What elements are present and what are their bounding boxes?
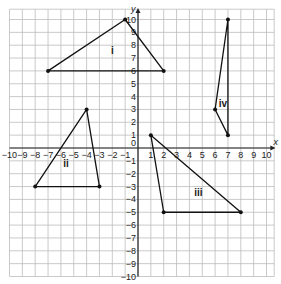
vertex-point [213,107,217,111]
origin-label: 0 [131,138,136,148]
y-tick-label: −7 [126,233,136,243]
y-tick-label: −3 [126,182,136,192]
vertex-point [162,69,166,73]
x-tick-label: 9 [251,150,256,160]
x-axis-label: x [273,137,279,147]
y-tick-label: 7 [131,53,136,63]
triangle-label: i [111,45,114,56]
triangle-label: iv [219,98,228,109]
y-tick-label: −6 [126,220,136,230]
y-tick-label: 8 [131,40,136,50]
x-tick-label: 8 [238,150,243,160]
x-tick-label: 1 [148,150,153,160]
triangle-label: iii [194,187,203,198]
x-tick-label: 4 [187,150,192,160]
y-tick-label: 2 [131,117,136,127]
triangle-outline [215,20,228,136]
vertex-point [123,18,127,22]
y-tick-label: −9 [126,259,136,269]
vertex-point [85,107,89,111]
x-tick-label: 7 [225,150,230,160]
y-tick-label: 3 [131,104,136,114]
x-tick-label: −5 [69,150,79,160]
x-tick-label: 5 [200,150,205,160]
y-tick-label: −2 [126,169,136,179]
y-tick-label: −4 [126,194,136,204]
y-tick-label: 5 [131,79,136,89]
y-tick-label: −10 [121,272,136,282]
x-tick-label: −9 [17,150,27,160]
y-axis-label: y [130,4,136,14]
x-tick-label: −3 [94,150,104,160]
vertex-point [226,18,230,22]
vertex-point [239,210,243,214]
x-tick-label: −7 [43,150,53,160]
vertex-point [33,185,37,189]
x-tick-label: −2 [107,150,117,160]
vertex-point [149,133,153,137]
coordinate-grid: xy −10−9−8−7−6−5−4−3−2−112345678910−10−9… [0,0,281,284]
x-tick-label: −8 [30,150,40,160]
vertex-point [226,133,230,137]
triangle-label: ii [63,158,69,169]
vertex-point [46,69,50,73]
x-tick-label: 6 [213,150,218,160]
y-axis-arrow-icon [136,8,141,13]
y-tick-label: 4 [131,92,136,102]
y-tick-label: −5 [126,207,136,217]
grid-lines [10,9,275,276]
vertex-point [97,185,101,189]
x-tick-label: −10 [2,150,17,160]
triangle-iv: iv [213,18,230,138]
x-tick-label: 10 [261,150,271,160]
vertex-point [162,210,166,214]
y-tick-label: −1 [126,156,136,166]
x-tick-label: −4 [81,150,91,160]
y-tick-label: −8 [126,246,136,256]
x-tick-label: 2 [161,150,166,160]
